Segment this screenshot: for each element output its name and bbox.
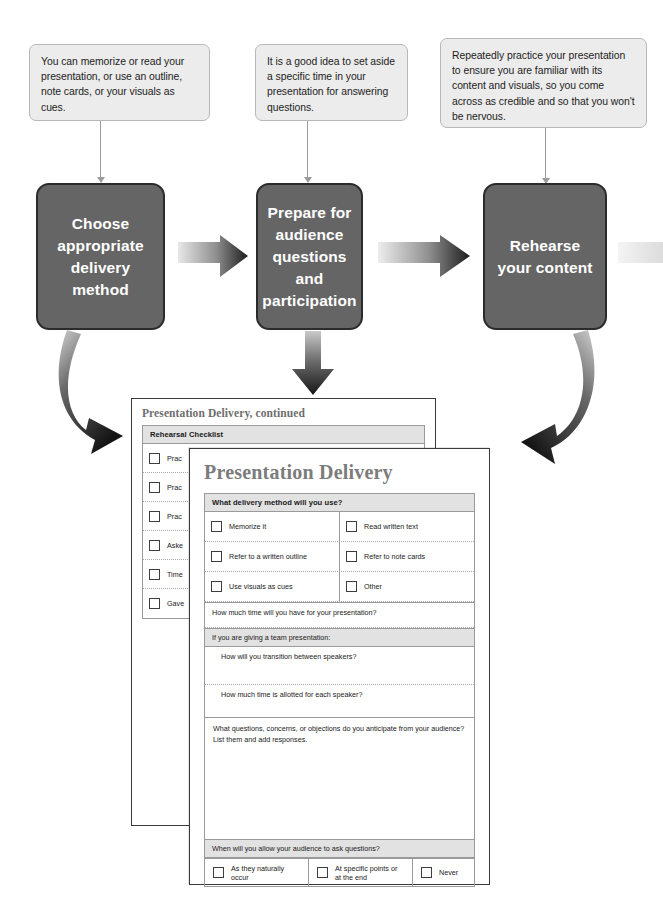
team-time-label: How much time is allotted for each speak… (221, 690, 362, 699)
checkbox-icon[interactable] (346, 551, 357, 562)
checkbox-icon[interactable] (149, 569, 160, 580)
checkbox-icon[interactable] (149, 540, 160, 551)
delivery-option-cell[interactable]: Read written text (339, 512, 474, 541)
team-presentation-header: If you are giving a team presentation: (205, 628, 474, 647)
arrow-step2-to-step3 (378, 235, 470, 277)
delivery-option-label: Other (364, 582, 382, 591)
delivery-option-cell[interactable]: Refer to a written outline (205, 542, 339, 571)
delivery-option-label: Use visuals as cues (229, 582, 293, 591)
delivery-option-label: Read written text (364, 522, 418, 531)
team-time-field[interactable]: How much time is allotted for each speak… (205, 685, 474, 717)
checklist-label: Gave (167, 599, 184, 608)
rehearsal-checklist-header: Rehearsal Checklist (143, 426, 424, 444)
checkbox-icon[interactable] (149, 598, 160, 609)
callout-audience-questions-text: It is a good idea to set aside a specifi… (267, 56, 395, 113)
checkbox-icon[interactable] (346, 581, 357, 592)
callout-stem-left (100, 121, 101, 179)
checklist-label: Prac (167, 512, 182, 521)
step-choose-delivery-method[interactable]: Choose appropriate delivery method (36, 183, 165, 330)
team-transition-label: How will you transition between speakers… (221, 652, 356, 661)
when-option-label: As they naturally occur (231, 864, 300, 882)
delivery-option-label: Memorize it (229, 522, 266, 531)
when-option-cell[interactable]: Never (412, 859, 474, 886)
callout-delivery-method-text: You can memorize or read your presentati… (41, 56, 184, 113)
when-questions-header: When will you allow your audience to ask… (205, 839, 474, 858)
front-document-title: Presentation Delivery (190, 449, 489, 493)
delivery-method-table: What delivery method will you use? Memor… (204, 493, 475, 887)
when-questions-options[interactable]: As they naturally occur At specific poin… (205, 858, 474, 886)
step-rehearse-content[interactable]: Rehearse your content (483, 183, 607, 330)
arrow-step3-to-offscreen (618, 235, 663, 277)
when-option-label: Never (439, 868, 458, 877)
delivery-option-cell[interactable]: Other (339, 572, 474, 601)
delivery-option-cell[interactable]: Use visuals as cues (205, 572, 339, 601)
checkbox-icon[interactable] (211, 521, 222, 532)
checkbox-icon[interactable] (211, 551, 222, 562)
callout-stem-right (545, 128, 546, 180)
checklist-label: Aske (167, 541, 183, 550)
time-question-field[interactable]: How much time will you have for your pre… (205, 602, 474, 628)
checkbox-icon[interactable] (421, 867, 432, 878)
step-prepare-audience-questions[interactable]: Prepare for audience questions and parti… (256, 183, 363, 330)
callout-stem-middle (307, 121, 308, 179)
when-option-cell[interactable]: As they naturally occur (205, 859, 308, 886)
back-document-title: Presentation Delivery, continued (132, 399, 435, 425)
when-option-cell[interactable]: At specific points or at the end (308, 859, 412, 886)
front-document[interactable]: Presentation Delivery What delivery meth… (189, 448, 490, 885)
time-question-label: How much time will you have for your pre… (212, 608, 377, 617)
delivery-option-label: Refer to note cards (364, 552, 425, 561)
delivery-option-cell[interactable]: Memorize it (205, 512, 339, 541)
team-transition-field[interactable]: How will you transition between speakers… (205, 647, 474, 685)
step-rehearse-content-label: Rehearse your content (493, 235, 597, 279)
step-choose-delivery-method-label: Choose appropriate delivery method (46, 213, 155, 301)
callout-audience-questions: It is a good idea to set aside a specifi… (255, 44, 408, 121)
checklist-label: Time (167, 570, 183, 579)
table-row[interactable]: Memorize it Read written text (205, 512, 474, 542)
arrow-step1-to-step2 (178, 235, 248, 277)
checklist-label: Prac (167, 483, 182, 492)
checkbox-icon[interactable] (346, 521, 357, 532)
table-row[interactable]: Use visuals as cues Other (205, 572, 474, 602)
step-prepare-audience-questions-label: Prepare for audience questions and parti… (262, 202, 356, 312)
callout-delivery-method: You can memorize or read your presentati… (29, 44, 210, 121)
checklist-label: Prac (167, 454, 182, 463)
checkbox-icon[interactable] (149, 511, 160, 522)
callout-rehearse: Repeatedly practice your presentation to… (440, 38, 647, 128)
delivery-option-cell[interactable]: Refer to note cards (339, 542, 474, 571)
checkbox-icon[interactable] (211, 581, 222, 592)
delivery-option-label: Refer to a written outline (229, 552, 307, 561)
checkbox-icon[interactable] (213, 867, 224, 878)
arrow-step2-to-front-document (292, 331, 334, 395)
when-option-label: At specific points or at the end (335, 864, 404, 882)
delivery-method-header: What delivery method will you use? (205, 494, 474, 512)
checkbox-icon[interactable] (149, 453, 160, 464)
table-row[interactable]: Refer to a written outline Refer to note… (205, 542, 474, 572)
checkbox-icon[interactable] (149, 482, 160, 493)
callout-rehearse-text: Repeatedly practice your presentation to… (452, 50, 635, 122)
checkbox-icon[interactable] (317, 867, 328, 878)
anticipate-questions-field[interactable]: What questions, concerns, or objections … (205, 717, 474, 839)
anticipate-questions-label: What questions, concerns, or objections … (213, 724, 464, 744)
